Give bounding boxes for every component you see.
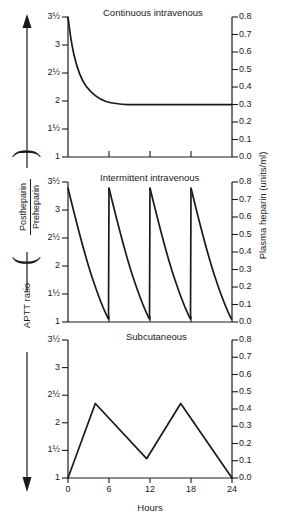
panel-2-ytick-left-1: 1½ [40, 288, 60, 298]
panel-3-title: Subcutaneous [126, 331, 187, 342]
panel-3-ytick-right-6: 0.6 [239, 369, 261, 379]
series-decay-3 [150, 188, 191, 319]
panel-3-xtick-2: 12 [141, 484, 159, 494]
panel-3-ytick-right-4: 0.4 [239, 403, 261, 413]
panel-3-ytick-left-3: 2½ [40, 389, 60, 399]
panel-1-title: Continuous intravenous [103, 7, 203, 18]
panel-3-xtick-4: 24 [223, 484, 241, 494]
panel-3-xtick-0: 0 [59, 484, 77, 494]
panel-3-ytick-left-4: 3 [40, 362, 60, 372]
panel-intermittent-intravenous: Intermittent intravenous 1 1½ 2 2½ 3 3½ … [0, 165, 281, 330]
panel-1-ytick-left-0: 1 [40, 151, 60, 161]
panel-1-ytick-right-0: 0.0 [239, 151, 261, 161]
panel-3-ytick-right-1: 0.1 [239, 455, 261, 465]
panel-1-ytick-left-3: 2½ [40, 67, 60, 77]
panel-3-ytick-left-1: 1½ [40, 444, 60, 454]
series-decay-4 [191, 188, 232, 319]
panel-2-ytick-right-8: 0.8 [239, 176, 261, 186]
panel-2-ytick-right-4: 0.4 [239, 246, 261, 256]
panel-3-ytick-left-5: 3½ [40, 334, 60, 344]
panel-1-ytick-right-4: 0.4 [239, 81, 261, 91]
panel-2-ytick-right-3: 0.3 [239, 264, 261, 274]
panel-2-ytick-left-3: 2½ [40, 232, 60, 242]
panel-2-ytick-left-5: 3½ [40, 176, 60, 186]
panel-3-xtick-1: 6 [100, 484, 118, 494]
panel-2-ytick-right-6: 0.6 [239, 211, 261, 221]
series-decay-1 [68, 188, 109, 319]
x-axis-title: Hours [120, 502, 180, 513]
panel-2-ytick-right-1: 0.1 [239, 299, 261, 309]
series-rise-2 [109, 188, 110, 319]
series-decay-2 [109, 188, 150, 319]
panel-2-ytick-left-0: 1 [40, 316, 60, 326]
panel-3-ytick-right-8: 0.8 [239, 334, 261, 344]
heparin-administration-figure: ( Postheparin Preheparin ) APTT ratio Pl… [0, 0, 281, 520]
panel-1-ytick-left-5: 3½ [40, 11, 60, 21]
panel-subcutaneous: Subcutaneous 1 1½ 2 2½ 3 3½ 0.0 0.1 0.2 … [0, 330, 281, 520]
panel-1-ytick-right-1: 0.1 [239, 134, 261, 144]
panel-3-ytick-left-2: 2 [40, 417, 60, 427]
panel-1-ytick-right-6: 0.6 [239, 46, 261, 56]
panel-1-ytick-right-7: 0.7 [239, 29, 261, 39]
series-rise-4 [191, 188, 192, 319]
panel-1-ytick-right-8: 0.8 [239, 11, 261, 21]
panel-3-ytick-right-5: 0.5 [239, 386, 261, 396]
panel-3-xtick-3: 18 [182, 484, 200, 494]
panel-1-ytick-left-1: 1½ [40, 123, 60, 133]
panel-3-ytick-left-0: 1 [40, 472, 60, 482]
series-rise-3 [150, 188, 151, 319]
panel-2-title: Intermittent intravenous [100, 172, 199, 183]
panel-2-ytick-right-0: 0.0 [239, 316, 261, 326]
panel-1-ytick-right-2: 0.2 [239, 116, 261, 126]
series-line-subcutaneous [68, 404, 232, 479]
panel-1-ytick-left-4: 3 [40, 39, 60, 49]
panel-2-ytick-right-7: 0.7 [239, 194, 261, 204]
panel-3-ytick-right-7: 0.7 [239, 351, 261, 361]
panel-1-ytick-right-3: 0.3 [239, 99, 261, 109]
panel-3-ytick-right-2: 0.2 [239, 438, 261, 448]
panel-continuous-intravenous: Continuous intravenous 1 1½ 2 2½ 3 3½ 0.… [0, 0, 281, 165]
series-line-continuous [68, 17, 232, 105]
panel-2-ytick-right-5: 0.5 [239, 229, 261, 239]
panel-1-ytick-right-5: 0.5 [239, 64, 261, 74]
panel-2-ytick-right-2: 0.2 [239, 281, 261, 291]
panel-1-ytick-left-2: 2 [40, 95, 60, 105]
panel-3-ytick-right-0: 0.0 [239, 472, 261, 482]
panel-2-ytick-left-4: 3 [40, 204, 60, 214]
panel-3-ytick-right-3: 0.3 [239, 420, 261, 430]
panel-2-ytick-left-2: 2 [40, 260, 60, 270]
